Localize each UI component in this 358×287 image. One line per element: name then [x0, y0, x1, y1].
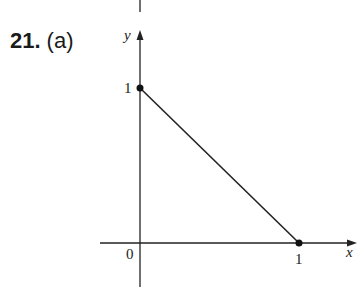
point-0-1	[137, 85, 144, 92]
origin-label: 0	[126, 246, 134, 262]
point-1-0	[296, 240, 303, 247]
x-tick-1: 1	[295, 251, 303, 267]
y-axis-label: y	[122, 27, 131, 43]
line-segment	[140, 88, 299, 243]
y-axis-arrow-icon	[137, 30, 144, 40]
graph: y 1 0 1 x	[0, 0, 358, 287]
y-tick-1: 1	[124, 80, 132, 96]
x-axis-label: x	[345, 244, 353, 260]
